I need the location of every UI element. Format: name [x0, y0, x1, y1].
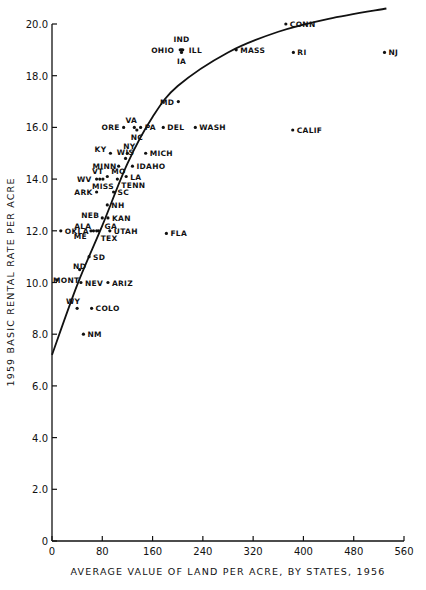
- svg-text:PA: PA: [145, 123, 156, 132]
- svg-text:RI: RI: [297, 48, 306, 57]
- svg-text:IA: IA: [177, 57, 186, 66]
- data-point-ariz: ARIZ: [106, 279, 133, 288]
- svg-text:KY: KY: [95, 145, 107, 154]
- y-tick-label: 2.0: [32, 484, 48, 495]
- data-point-ill: ILL: [181, 46, 202, 55]
- svg-text:OHIO: OHIO: [151, 46, 174, 55]
- y-tick-label: 18.0: [26, 71, 48, 82]
- data-point-neb: NEB: [81, 211, 104, 220]
- data-point-pa: PA: [139, 123, 156, 132]
- y-tick-label: 16.0: [26, 122, 48, 133]
- x-tick-label: 240: [193, 546, 212, 557]
- svg-text:ALA: ALA: [74, 222, 91, 231]
- data-point-ia: IA: [177, 51, 186, 67]
- data-point-md: MD: [160, 98, 180, 107]
- data-point-me: ME: [74, 229, 93, 241]
- svg-text:NEB: NEB: [81, 211, 99, 220]
- data-point-ohio: OHIO: [151, 46, 182, 55]
- data-point-fla: FLA: [165, 229, 187, 238]
- svg-text:CONN: CONN: [290, 20, 316, 29]
- svg-text:WASH: WASH: [199, 123, 226, 132]
- svg-text:NEV: NEV: [85, 279, 103, 288]
- x-tick-label: 400: [294, 546, 313, 557]
- data-point-nc: NC: [131, 128, 144, 142]
- x-tick-label: 480: [344, 546, 363, 557]
- x-tick-label: 320: [244, 546, 263, 557]
- svg-text:NC: NC: [131, 133, 144, 142]
- x-tick-label: 0: [49, 546, 55, 557]
- x-tick-label: 80: [96, 546, 109, 557]
- scatter-chart: 08016024032040048056002.04.06.08.010.012…: [0, 0, 426, 590]
- svg-text:WIS: WIS: [117, 148, 134, 157]
- data-point-idaho: IDAHO: [131, 162, 166, 171]
- svg-text:SD: SD: [93, 253, 105, 262]
- svg-text:ME: ME: [74, 232, 87, 241]
- y-tick-label: 20.0: [26, 19, 48, 30]
- y-tick-label: 0: [42, 536, 48, 547]
- data-point-nev: NEV: [79, 279, 103, 288]
- axes: 08016024032040048056002.04.06.08.010.012…: [26, 19, 414, 557]
- svg-text:DEL: DEL: [167, 123, 184, 132]
- svg-text:NJ: NJ: [389, 48, 399, 57]
- svg-text:MONT: MONT: [53, 276, 80, 285]
- svg-text:ILL: ILL: [189, 46, 202, 55]
- data-point-nd: ND: [73, 262, 86, 272]
- svg-text:IDAHO: IDAHO: [136, 162, 165, 171]
- y-tick-label: 14.0: [26, 174, 48, 185]
- data-point-wis: WIS: [117, 148, 134, 160]
- svg-text:ARIZ: ARIZ: [112, 279, 133, 288]
- data-point-va: VA: [125, 116, 137, 129]
- data-point-colo: COLO: [90, 304, 120, 313]
- x-tick-label: 160: [143, 546, 162, 557]
- data-point-mich: MICH: [144, 149, 173, 158]
- svg-text:MD: MD: [160, 98, 174, 107]
- svg-text:WV: WV: [77, 175, 92, 184]
- svg-text:NM: NM: [87, 330, 101, 339]
- data-point-wash: WASH: [194, 123, 226, 132]
- svg-text:ARK: ARK: [74, 188, 93, 197]
- y-tick-label: 8.0: [32, 329, 48, 340]
- data-point-mont: MONT: [53, 276, 80, 285]
- y-tick-label: 6.0: [32, 381, 48, 392]
- data-point-nm: NM: [82, 330, 102, 339]
- data-point-calif: CALIF: [291, 126, 322, 135]
- y-tick-label: 12.0: [26, 226, 48, 237]
- x-axis-title: AVERAGE VALUE OF LAND PER ACRE, BY STATE…: [70, 566, 385, 577]
- data-point-ore: ORE: [101, 123, 125, 132]
- data-point-ri: RI: [292, 48, 307, 57]
- data-point-conn: CONN: [284, 20, 315, 29]
- svg-text:MISS: MISS: [92, 182, 114, 191]
- svg-text:ORE: ORE: [101, 123, 119, 132]
- x-tick-label: 560: [394, 546, 413, 557]
- svg-text:COLO: COLO: [96, 304, 120, 313]
- svg-text:MASS: MASS: [240, 46, 265, 55]
- svg-text:ND: ND: [73, 262, 86, 271]
- y-axis-title: 1959 BASIC RENTAL RATE PER ACRE: [5, 177, 16, 386]
- data-point-del: DEL: [162, 123, 185, 132]
- svg-text:NH: NH: [111, 201, 124, 210]
- data-points: INDOHIOILLIACONNMASSRINJMDOREVANCPADELWA…: [53, 20, 398, 339]
- data-point-nj: NJ: [383, 48, 398, 57]
- svg-text:WY: WY: [66, 297, 81, 306]
- svg-text:MO: MO: [111, 167, 125, 176]
- svg-text:VA: VA: [125, 116, 137, 125]
- svg-text:UTAH: UTAH: [114, 227, 138, 236]
- svg-text:IND: IND: [173, 35, 189, 44]
- y-tick-label: 10.0: [26, 278, 48, 289]
- svg-text:MICH: MICH: [150, 149, 173, 158]
- y-tick-label: 4.0: [32, 433, 48, 444]
- svg-text:VT: VT: [92, 167, 104, 176]
- svg-text:CALIF: CALIF: [297, 126, 323, 135]
- svg-text:SC: SC: [118, 188, 130, 197]
- data-point-ky: KY: [95, 145, 112, 155]
- svg-text:FLA: FLA: [170, 229, 187, 238]
